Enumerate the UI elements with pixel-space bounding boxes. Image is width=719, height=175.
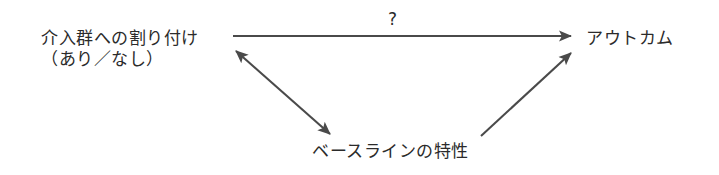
node-allocation: 介入群への割り付け （あり／なし） [41, 28, 199, 70]
node-outcome: アウトカム [586, 28, 674, 49]
causal-diagram: 介入群への割り付け （あり／なし） アウトカム ベースラインの特性 ? [0, 0, 719, 175]
edge-allocation-baseline [236, 51, 330, 134]
node-allocation-line2: （あり／なし） [41, 49, 199, 70]
edge-label-question: ? [388, 9, 397, 29]
edge-baseline-to-outcome [481, 53, 571, 136]
node-baseline: ベースラインの特性 [312, 141, 469, 162]
node-allocation-line1: 介入群への割り付け [41, 28, 199, 48]
